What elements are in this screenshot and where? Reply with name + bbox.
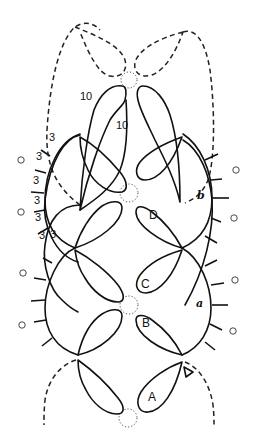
ring-lower-left-upper — [75, 250, 123, 302]
join-marker — [18, 209, 24, 215]
stitch-count-label: 10 — [116, 119, 128, 131]
picots-right — [205, 154, 229, 350]
top-ring-right — [137, 86, 180, 202]
join-marker — [230, 328, 236, 334]
chain-space-label: 3 — [34, 194, 40, 206]
ring-bottom-left — [78, 360, 123, 414]
ring-lower-left — [78, 310, 122, 355]
chain-space-label: 3 — [35, 211, 41, 223]
tatting-diagram: 10 10 3 3 3 3 3 3 3 D C B A b a — [0, 0, 253, 438]
next-row-dashed-right — [185, 362, 214, 425]
chain-label-b: b — [197, 189, 205, 202]
chain-b — [44, 135, 212, 312]
chain-space-label: 3 — [39, 229, 45, 241]
chain-space-label: 3 — [33, 174, 39, 186]
start-arrow-icon — [184, 367, 193, 377]
join-marker — [231, 215, 237, 221]
ring-D — [136, 207, 182, 248]
ring-label-A: A — [148, 390, 156, 404]
previous-row-dashed-outline — [47, 23, 214, 205]
ring-A — [138, 362, 182, 412]
next-row-dashed-left — [44, 360, 76, 425]
join-marker — [18, 157, 24, 163]
join-marker — [19, 322, 25, 328]
join-circle-upper — [120, 184, 138, 202]
ring-label-D: D — [149, 208, 158, 222]
chain-space-label: 3 — [49, 131, 55, 143]
ring-label-B: B — [142, 316, 150, 330]
join-marker — [233, 167, 239, 173]
chain-label-a: a — [196, 297, 203, 310]
chain-space-label: 3 — [36, 150, 42, 162]
chain-space-label: 3 — [50, 228, 56, 240]
stitch-count-label: 10 — [80, 90, 92, 102]
join-marker — [232, 277, 238, 283]
ring-upper-right — [137, 137, 182, 180]
join-marker — [20, 270, 26, 276]
ring-label-C: C — [141, 277, 150, 291]
